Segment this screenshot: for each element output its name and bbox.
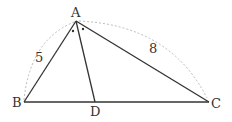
angle-mark-dac: [82, 28, 84, 30]
length-ab: 5: [35, 50, 43, 65]
label-b: B: [12, 95, 22, 110]
arc-ab: [24, 22, 74, 100]
segment-ad: [76, 21, 95, 102]
triangle-diagram: A B C D 5 8: [0, 0, 232, 122]
side-ab: [24, 21, 76, 102]
angle-mark-bad: [72, 30, 74, 32]
side-ac: [76, 21, 209, 102]
arc-ac: [79, 21, 207, 98]
label-a: A: [70, 5, 81, 20]
length-ac: 8: [149, 41, 157, 56]
label-d: D: [90, 104, 100, 119]
label-c: C: [211, 96, 221, 111]
